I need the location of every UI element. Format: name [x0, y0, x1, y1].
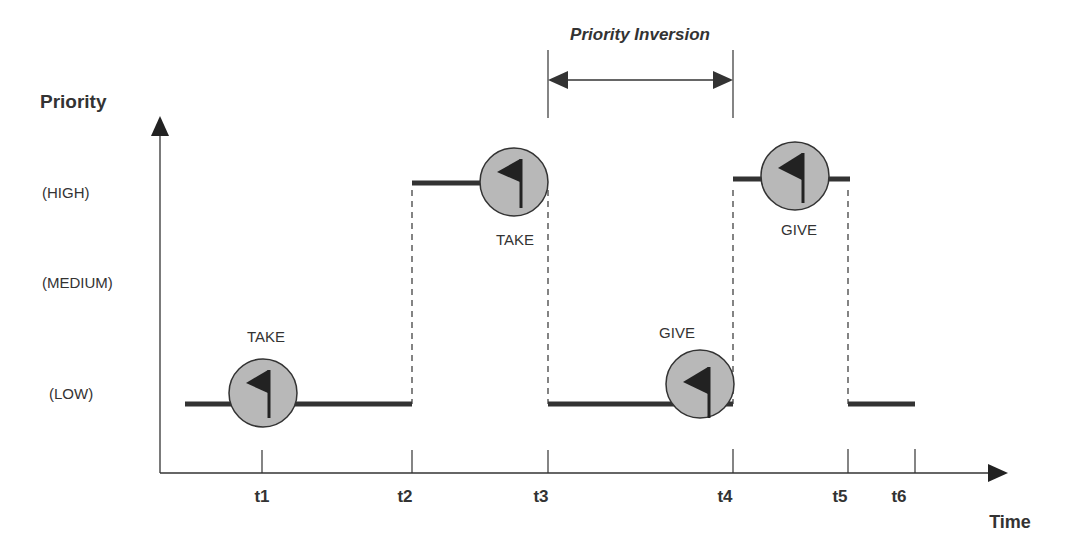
event-label: GIVE	[781, 221, 817, 238]
tick-t4: t4	[717, 487, 733, 506]
tick-t5: t5	[832, 487, 847, 506]
event-give-2: GIVE	[761, 142, 829, 238]
event-take-1: TAKE	[229, 328, 297, 427]
level-label-low: (LOW)	[49, 385, 93, 402]
x-axis-arrow-icon	[988, 464, 1008, 482]
time-tick-labels: t1 t2 t3 t4 t5 t6	[254, 487, 906, 506]
event-label: GIVE	[659, 324, 695, 341]
inversion-span: Priority Inversion	[548, 25, 733, 118]
level-label-medium: (MEDIUM)	[42, 274, 113, 291]
x-axis-label: Time	[989, 512, 1031, 532]
event-take-2: TAKE	[480, 148, 548, 248]
inversion-title: Priority Inversion	[570, 25, 710, 44]
tick-t2: t2	[397, 487, 412, 506]
level-label-high: (HIGH)	[42, 184, 90, 201]
priority-segments	[185, 179, 915, 404]
arrow-right-icon	[713, 71, 733, 89]
flag-circle-icon	[229, 359, 297, 427]
event-label: TAKE	[496, 231, 534, 248]
y-axis-arrow-icon	[151, 116, 169, 136]
event-label: TAKE	[247, 328, 285, 345]
tick-t3: t3	[533, 487, 548, 506]
y-axis-label: Priority	[40, 91, 107, 112]
tick-t1: t1	[254, 487, 269, 506]
arrow-left-icon	[548, 71, 568, 89]
tick-t6: t6	[891, 487, 906, 506]
priority-inversion-diagram: Priority Inversion Priority Time (HIGH) …	[0, 0, 1065, 556]
time-ticks	[262, 449, 915, 473]
flag-circle-icon	[480, 148, 548, 216]
